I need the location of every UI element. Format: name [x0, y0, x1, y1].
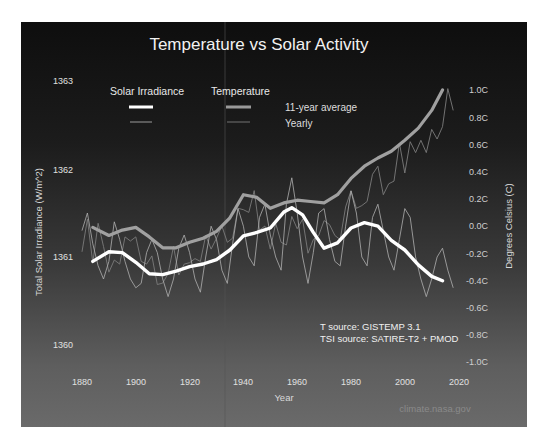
left-tick: 1360 — [53, 340, 73, 350]
x-tick: 1920 — [180, 377, 200, 387]
temp-source-note: T source: GISTEMP 3.1 — [320, 321, 421, 332]
left-tick: 1362 — [53, 165, 73, 175]
right-axis-label: Degrees Celsius (C) — [503, 183, 514, 269]
x-tick: 1960 — [287, 377, 307, 387]
legend-temp-label: Temperature — [211, 85, 270, 97]
right-axis: 1.0C 0.8C 0.6C 0.4C 0.2C 0.0C -0.2C -0.4… — [466, 85, 514, 367]
credit-text: climate.nasa.gov — [399, 403, 471, 414]
x-axis-label: Year — [274, 392, 293, 403]
chart-svg: Temperature vs Solar Activity Solar Irra… — [0, 0, 545, 445]
x-tick: 1940 — [233, 377, 253, 387]
left-tick: 1361 — [53, 252, 73, 262]
right-tick: -1.0C — [466, 357, 489, 367]
left-tick: 1363 — [53, 76, 73, 86]
legend-avg-label: 11-year average — [285, 102, 358, 113]
legend-solar-label: Solar Irradiance — [110, 85, 184, 97]
legend-yearly-label: Yearly — [285, 118, 312, 129]
x-tick: 1880 — [72, 377, 92, 387]
right-tick: -0.8C — [466, 330, 489, 340]
x-axis: 1880 1900 1920 1940 1960 1980 2000 2020 … — [72, 377, 469, 403]
right-tick: 0.6C — [469, 140, 489, 150]
series-layer — [82, 89, 453, 297]
temperature-avg-line — [93, 90, 443, 248]
left-axis: 1363 1362 1361 1360 Total Solar Irradian… — [33, 76, 73, 350]
right-tick: 0.8C — [469, 113, 489, 123]
chart-title: Temperature vs Solar Activity — [149, 35, 369, 54]
x-tick: 2000 — [395, 377, 415, 387]
right-tick: -0.6C — [466, 303, 489, 313]
tsi-source-note: TSI source: SATIRE-T2 + PMOD — [320, 333, 459, 344]
temperature-yearly-line — [82, 89, 453, 285]
right-tick: 0.2C — [469, 194, 489, 204]
legend: Solar Irradiance Temperature 11-year ave… — [110, 85, 358, 129]
left-axis-label: Total Solar Irradiance (W/m^2) — [33, 168, 44, 296]
x-tick: 1900 — [126, 377, 146, 387]
right-tick: 0.4C — [469, 167, 489, 177]
x-tick: 2020 — [449, 377, 469, 387]
right-tick: -0.2C — [466, 249, 489, 259]
right-tick: 0.0C — [469, 221, 489, 231]
x-tick: 1980 — [341, 377, 361, 387]
right-tick: -0.4C — [466, 276, 489, 286]
right-tick: 1.0C — [469, 85, 489, 95]
